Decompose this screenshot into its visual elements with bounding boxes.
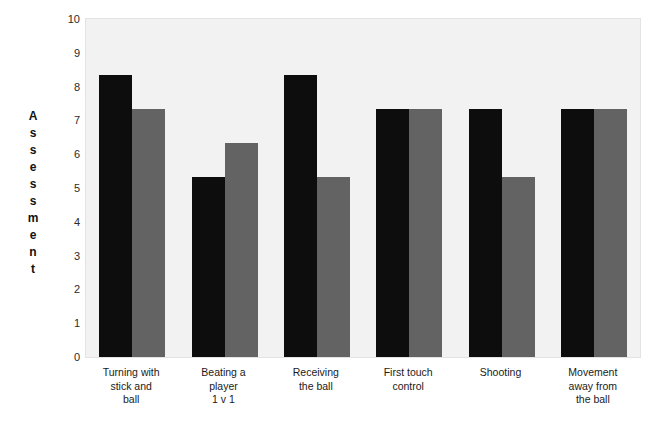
x-axis-category-label: Shooting <box>454 366 546 380</box>
y-axis-tick-label: 9 <box>52 47 80 59</box>
y-axis-tick-label: 3 <box>52 250 80 262</box>
y-axis-tick-labels: 109876543210 <box>52 0 80 424</box>
bar <box>409 109 442 357</box>
x-axis-category-label-line: Movement <box>547 366 639 380</box>
bars-layer <box>86 19 640 357</box>
x-axis-category-label-line: player <box>177 380 269 394</box>
x-axis-category-label: Beating aplayer1 v 1 <box>177 366 269 407</box>
y-axis-tick-label: 7 <box>52 114 80 126</box>
y-axis-title-letter: s <box>24 193 42 210</box>
y-axis-tick-label: 8 <box>52 81 80 93</box>
y-axis-title-letter: m <box>24 210 42 227</box>
x-axis-category-label-line: control <box>362 380 454 394</box>
bar-group <box>284 19 350 357</box>
y-axis-title-letter: s <box>24 176 42 193</box>
bar-chart: Assessment 109876543210 Turning withstic… <box>0 0 657 424</box>
bar <box>317 177 350 357</box>
bar <box>502 177 535 357</box>
bar-group <box>99 19 165 357</box>
y-axis-title-letter: A <box>24 108 42 125</box>
x-axis-category-label-line: Turning with <box>85 366 177 380</box>
bar <box>561 109 594 357</box>
x-axis-category-label-line: Beating a <box>177 366 269 380</box>
x-axis-category-label: Turning withstick andball <box>85 366 177 407</box>
x-axis-category-label-line: ball <box>85 393 177 407</box>
bar <box>225 143 258 357</box>
y-axis-tick-label: 6 <box>52 148 80 160</box>
y-axis-title-letter: s <box>24 125 42 142</box>
y-axis-title-letter: e <box>24 159 42 176</box>
x-axis-category-label: First touchcontrol <box>362 366 454 393</box>
x-axis-category-label: Movementaway fromthe ball <box>547 366 639 407</box>
x-axis-category-labels: Turning withstick andballBeating aplayer… <box>85 366 641 422</box>
y-axis-title: Assessment <box>24 108 42 278</box>
bar-group <box>376 19 442 357</box>
bar <box>594 109 627 357</box>
y-axis-tick-label: 10 <box>52 13 80 25</box>
x-axis-category-label-line: Receiving <box>270 366 362 380</box>
y-axis-tick-label: 2 <box>52 283 80 295</box>
bar <box>376 109 409 357</box>
bar <box>469 109 502 357</box>
x-axis-category-label-line: away from <box>547 380 639 394</box>
bar-group <box>561 19 627 357</box>
y-axis-title-letter: t <box>24 261 42 278</box>
bar <box>192 177 225 357</box>
y-axis-tick-label: 5 <box>52 182 80 194</box>
x-axis-category-label: Receivingthe ball <box>270 366 362 393</box>
y-axis-title-letter: e <box>24 227 42 244</box>
bar <box>132 109 165 357</box>
bar-group <box>469 19 535 357</box>
y-axis-tick-label: 0 <box>52 351 80 363</box>
x-axis-category-label-line: First touch <box>362 366 454 380</box>
bar-group <box>192 19 258 357</box>
y-axis-title-letter: s <box>24 142 42 159</box>
x-axis-category-label-line: Shooting <box>454 366 546 380</box>
x-axis-category-label-line: the ball <box>270 380 362 394</box>
bar <box>99 75 132 357</box>
y-axis-tick-label: 1 <box>52 317 80 329</box>
y-axis-tick-label: 4 <box>52 216 80 228</box>
bar <box>284 75 317 357</box>
x-axis-category-label-line: stick and <box>85 380 177 394</box>
plot-area <box>85 18 641 358</box>
x-axis-category-label-line: the ball <box>547 393 639 407</box>
x-axis-category-label-line: 1 v 1 <box>177 393 269 407</box>
y-axis-title-letter: n <box>24 244 42 261</box>
